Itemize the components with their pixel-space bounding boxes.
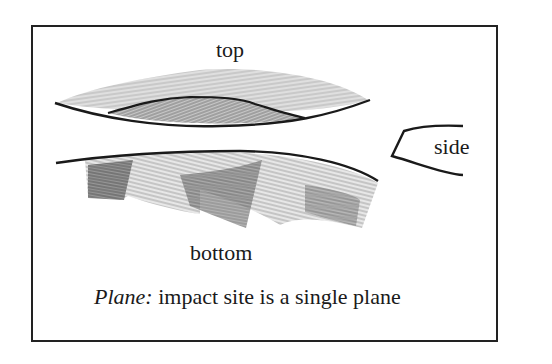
side-label: side [434, 136, 469, 158]
bottom-view-sketch [56, 151, 378, 228]
impact-sketch [0, 0, 552, 364]
caption-description: impact site is a single plane [153, 284, 401, 309]
figure-caption: Plane: impact site is a single plane [94, 286, 401, 308]
top-view-sketch [55, 69, 370, 126]
top-label: top [216, 39, 244, 61]
caption-term: Plane: [94, 284, 153, 309]
bottom-label: bottom [190, 242, 252, 264]
